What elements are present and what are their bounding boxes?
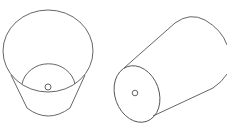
small-end-ellipse — [106, 59, 167, 128]
left-side-line — [11, 75, 27, 108]
diagram-canvas — [0, 0, 227, 128]
upright-frustum-figure — [3, 10, 93, 116]
tilted-frustum-figure — [106, 17, 227, 128]
top-rim-ellipse — [3, 10, 93, 92]
end-hole-circle — [132, 90, 138, 96]
top-side-curve — [124, 17, 227, 68]
bottom-side-curve — [153, 74, 227, 116]
bottom-outer-arc — [27, 108, 70, 116]
inner-bottom-arc — [22, 64, 75, 84]
center-hole-circle — [45, 84, 51, 90]
right-side-line — [70, 75, 85, 108]
